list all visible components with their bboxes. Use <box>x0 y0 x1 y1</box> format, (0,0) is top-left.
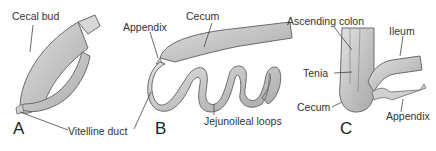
label-appendix-c: Appendix <box>386 110 430 122</box>
label-ileum: Ileum <box>389 25 415 37</box>
label-appendix-b: Appendix <box>123 21 167 33</box>
panel-a-midgut-loop <box>16 15 100 130</box>
label-tenia: Tenia <box>303 67 328 79</box>
label-vitelline-duct: Vitelline duct <box>68 125 127 137</box>
panel-c-ileocecal-region <box>332 27 426 112</box>
panel-letter-a: A <box>13 120 24 138</box>
label-cecum-c: Cecum <box>297 101 330 113</box>
label-ascending-colon: Ascending colon <box>287 15 364 27</box>
label-cecal-bud: Cecal bud <box>12 10 59 22</box>
embryology-midgut-figure: Cecal bud A Vitelline duct Appendix Cecu… <box>0 0 436 151</box>
label-jejunoileal-loops: Jejunoileal loops <box>204 115 282 127</box>
label-cecum-b: Cecum <box>186 10 219 22</box>
panel-letter-c: C <box>340 120 352 138</box>
panel-letter-b: B <box>155 120 166 138</box>
figure-illustration <box>0 0 436 151</box>
panel-b-cecum-and-loops <box>134 22 292 129</box>
